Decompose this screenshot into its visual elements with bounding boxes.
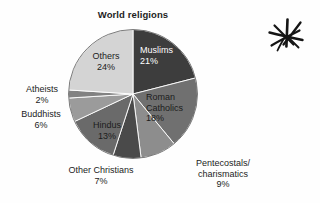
pie-label-pentecostals-charismatics: Pentecostals/ charismatics 9% [180,158,266,190]
pie-label-buddhists-name: Buddhists [21,109,61,119]
asterisk-icon [262,13,312,63]
pie-label-pentecostals-value: 9% [180,179,266,190]
pie-label-buddhists-value: 6% [8,120,74,131]
pie-slice-group [69,30,198,159]
pie-label-other-christians-value: 7% [49,176,153,187]
pie-slice-others [69,30,133,95]
pie-label-other-christians: Other Christians 7% [49,165,153,186]
pie-label-buddhists: Buddhists 6% [8,109,74,130]
pie-label-atheists-value: 2% [11,95,73,106]
pie-label-pentecostals-line1: Pentecostals/ [196,158,250,168]
chart-page: World religions Muslims 21% Roman Cathol… [0,0,320,203]
pie-label-pentecostals-line2: charismatics [180,169,266,180]
pie-label-atheists: Atheists 2% [11,84,73,105]
pie-label-atheists-name: Atheists [26,84,58,94]
pie-label-other-christians-name: Other Christians [68,165,133,175]
